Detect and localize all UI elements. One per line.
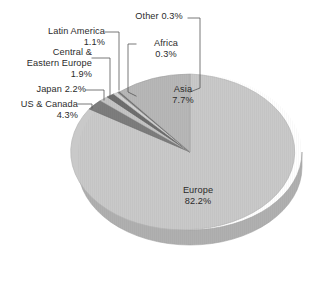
label-cee-pct: 1.9% bbox=[6, 69, 92, 80]
leader-line-japan bbox=[86, 90, 104, 100]
label-japan: Japan 2.2% bbox=[16, 84, 86, 95]
label-cee-name-line1: Central & bbox=[53, 47, 92, 57]
label-europe-name: Europe bbox=[183, 185, 213, 195]
label-asia: Asia 7.7% bbox=[160, 84, 206, 106]
label-africa-name: Africa bbox=[154, 38, 178, 48]
label-latin-america: Latin America 1.1% bbox=[25, 26, 105, 48]
label-latin-america-name: Latin America bbox=[48, 26, 105, 36]
label-other: Other 0.3% bbox=[128, 11, 190, 22]
label-central-eastern-europe: Central & Eastern Europe 1.9% bbox=[6, 47, 92, 80]
label-africa-pct: 0.3% bbox=[138, 49, 194, 60]
label-cee-name-line2: Eastern Europe bbox=[6, 58, 92, 69]
label-other-text: Other 0.3% bbox=[135, 11, 182, 21]
label-asia-pct: 7.7% bbox=[160, 95, 206, 106]
leader-line-us-canada bbox=[78, 104, 92, 108]
label-us-canada-name: US & Canada bbox=[21, 99, 78, 109]
label-africa: Africa 0.3% bbox=[138, 38, 194, 60]
label-europe-pct: 82.2% bbox=[168, 196, 228, 207]
leader-line-latin-america bbox=[105, 32, 119, 90]
label-us-canada-pct: 4.3% bbox=[6, 110, 78, 121]
label-japan-text: Japan 2.2% bbox=[36, 84, 86, 94]
label-us-canada: US & Canada 4.3% bbox=[6, 99, 78, 121]
label-europe: Europe 82.2% bbox=[168, 185, 228, 207]
pie-chart-figure: Other 0.3% Africa 0.3% Asia 7.7% Europe … bbox=[0, 0, 325, 286]
label-asia-name: Asia bbox=[174, 84, 192, 94]
